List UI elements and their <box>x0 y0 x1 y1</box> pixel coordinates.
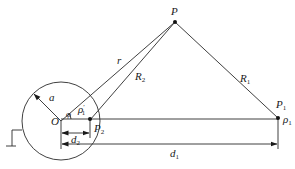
point-P <box>173 20 177 24</box>
label-R1: R1 <box>239 72 251 86</box>
label-phi: φ <box>66 109 71 119</box>
label-R2: R2 <box>134 70 146 84</box>
point-P2 <box>88 117 92 121</box>
label-d1: d1 <box>170 147 180 161</box>
ground-symbol <box>6 130 22 146</box>
label-P2: P2 <box>93 122 105 136</box>
label-r: r <box>117 54 122 66</box>
label-P: P <box>170 5 178 17</box>
label-a: a <box>49 91 55 103</box>
segment-R2 <box>90 22 175 120</box>
segment-R1 <box>175 22 278 118</box>
label-d2: d2 <box>71 133 81 147</box>
point-P1 <box>276 116 280 120</box>
label-rho1-prime: ρ′1 <box>77 103 86 117</box>
diagram-canvas: P r R2 R1 P1 ρ1 a O φ ρ′1 P2 d2 d1 <box>0 0 295 169</box>
label-rho1: ρ1 <box>282 113 292 127</box>
label-O: O <box>51 115 59 127</box>
label-P1: P1 <box>275 98 287 112</box>
